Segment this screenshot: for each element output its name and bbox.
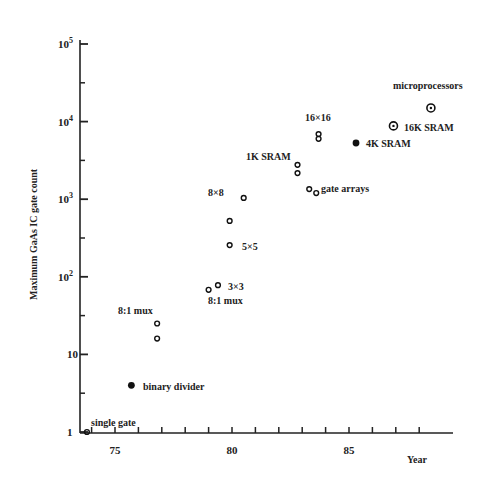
x-tick-label: 75	[110, 444, 122, 456]
data-point-open	[314, 191, 319, 196]
data-point-open	[155, 321, 160, 326]
point-annotation: microprocessors	[393, 80, 463, 91]
point-annotation: 5×5	[242, 241, 258, 252]
data-point-open	[241, 195, 246, 200]
y-tick-label: 102	[58, 269, 73, 283]
data-point-filled	[353, 140, 360, 147]
data-point-open	[307, 187, 312, 192]
point-annotation: 16×16	[305, 112, 331, 123]
axes	[80, 40, 453, 433]
data-point-open	[295, 171, 300, 176]
data-point-open	[155, 336, 160, 341]
point-annotation: 3×3	[228, 281, 244, 292]
x-tick-label: 85	[344, 444, 356, 456]
x-axis-label: Year	[407, 454, 428, 465]
x-axis-ticks: 758085	[92, 427, 420, 456]
y-axis-ticks: 110102103104105	[58, 36, 88, 438]
data-point-center	[392, 125, 394, 127]
data-point-open	[206, 287, 211, 292]
data-point-open	[227, 243, 232, 248]
y-axis-label: Maximum GaAs IC gate count	[28, 168, 39, 300]
y-tick-label: 103	[58, 191, 73, 205]
point-annotation: 8:1 mux	[118, 305, 153, 316]
data-point-filled	[128, 382, 135, 389]
point-annotation: 8×8	[208, 187, 224, 198]
y-tick-label: 1	[67, 426, 73, 438]
point-annotation: single gate	[91, 417, 136, 428]
y-tick-label: 105	[58, 36, 73, 50]
point-annotation: 16K SRAM	[404, 122, 454, 133]
point-annotations: single gatebinary divider8:1 mux8:1 mux3…	[91, 80, 463, 428]
point-annotation: binary divider	[143, 381, 205, 392]
data-point-open	[295, 162, 300, 167]
point-annotation: gate arrays	[321, 183, 369, 194]
data-point-open	[227, 219, 232, 224]
point-annotation: 8:1 mux	[208, 295, 243, 306]
data-point-center	[430, 107, 432, 109]
scatter-chart: 110102103104105 758085 single gatebinary…	[0, 0, 490, 489]
point-annotation: 4K SRAM	[366, 138, 411, 149]
x-tick-label: 80	[227, 444, 239, 456]
y-tick-label: 104	[58, 114, 73, 128]
data-point-open	[216, 283, 221, 288]
point-annotation: 1K SRAM	[246, 151, 291, 162]
y-tick-label: 10	[67, 348, 79, 360]
